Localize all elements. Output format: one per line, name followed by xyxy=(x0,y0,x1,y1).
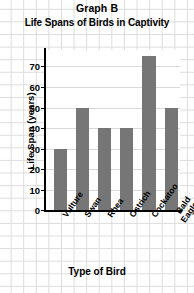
y-axis-tick xyxy=(41,149,44,150)
bar xyxy=(54,149,67,211)
y-axis-tick xyxy=(41,87,44,88)
y-axis-tick xyxy=(41,66,44,67)
gridline xyxy=(45,87,180,88)
chart-subtitle: Life Spans of Birds in Captivity xyxy=(0,16,194,30)
y-axis-tick xyxy=(41,210,44,211)
x-axis-tick-labels: VultureSwanRheaOstrichCockatooBaldEagle xyxy=(44,214,180,274)
plot-wrapper: 010203040506070 Life Span (years) Vultur… xyxy=(44,50,180,212)
bar xyxy=(142,56,155,210)
chart-title-block: Graph B Life Spans of Birds in Captivity xyxy=(0,2,194,30)
x-axis-title: Type of Bird xyxy=(0,266,194,277)
y-axis-tick xyxy=(41,169,44,170)
y-axis-line xyxy=(44,48,46,212)
y-axis-title: Life Span (years) xyxy=(24,50,38,212)
gridline xyxy=(45,108,180,109)
gridline xyxy=(45,128,180,129)
chart-title: Graph B xyxy=(0,2,194,15)
chart-sheet: Graph B Life Spans of Birds in Captivity… xyxy=(0,0,194,293)
y-axis-tick xyxy=(41,190,44,191)
gridline xyxy=(45,66,180,67)
bar xyxy=(120,128,133,210)
y-axis-tick xyxy=(41,128,44,129)
y-axis-tick xyxy=(41,108,44,109)
